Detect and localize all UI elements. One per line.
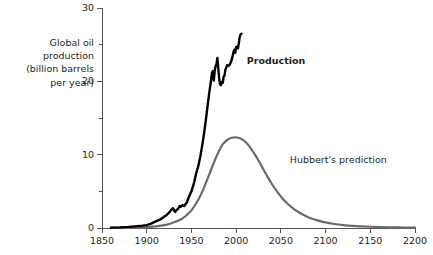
- axes: [97, 8, 415, 233]
- series-path-production: [111, 34, 242, 228]
- y-tick-label-10: 10: [72, 149, 94, 160]
- y-tick-label-20: 20: [72, 75, 94, 86]
- x-tick-label-2150: 2150: [350, 235, 390, 246]
- x-tick-label-1850: 1850: [82, 235, 122, 246]
- x-tick-label-2100: 2100: [306, 235, 346, 246]
- x-tick-label-2050: 2050: [261, 235, 301, 246]
- x-tick-label-1900: 1900: [127, 235, 167, 246]
- x-tick-label-2200: 2200: [395, 235, 433, 246]
- y-tick-label-0: 0: [72, 222, 94, 233]
- series-path-hubbert-s-prediction: [111, 137, 415, 227]
- production-series-label: Production: [247, 55, 305, 66]
- hubbert-prediction-series-label: Hubbert's prediction: [290, 154, 387, 165]
- x-tick-label-1950: 1950: [171, 235, 211, 246]
- oil-production-chart: Global oil production (billion barrels p…: [0, 0, 433, 255]
- y-tick-label-30: 30: [72, 2, 94, 13]
- x-tick-label-2000: 2000: [216, 235, 256, 246]
